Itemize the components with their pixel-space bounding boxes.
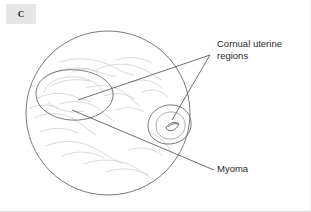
label-myoma-line-1: Myoma: [217, 163, 248, 175]
cornual-leader-right: [172, 55, 210, 120]
label-myoma: Myoma: [217, 163, 248, 175]
uterine-cavity-illustration: [0, 0, 311, 212]
label-cornual-uterine-regions: Cornual uterine regions: [217, 38, 282, 61]
right-cornual-region: [148, 105, 191, 144]
right-cornual-inner-ring: [156, 112, 185, 139]
label-cornual-line-1: Cornual uterine: [217, 38, 282, 50]
figure-panel: C Cornual uterine regions Myoma: [0, 0, 311, 212]
cornual-leader-left: [78, 55, 210, 100]
panel-tag: C: [6, 4, 36, 24]
label-cornual-line-2: regions: [217, 50, 282, 62]
myoma-lesion: [166, 122, 179, 130]
